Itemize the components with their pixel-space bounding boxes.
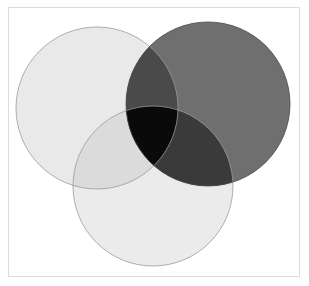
venn-diagram-canvas: Three-set Venn diagram	[0, 0, 309, 286]
venn-svg	[0, 0, 309, 286]
